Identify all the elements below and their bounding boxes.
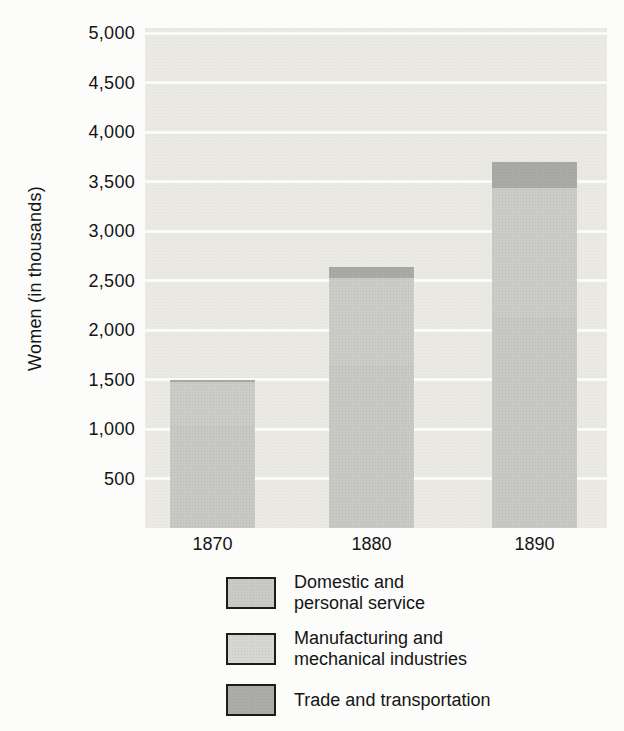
y-tick-label: 3,500 — [40, 171, 135, 193]
legend: Domestic and personal serviceManufacturi… — [226, 572, 490, 730]
y-tick-label: 1,500 — [40, 369, 135, 391]
bar-segment — [492, 188, 577, 317]
y-tick-label: 4,500 — [40, 72, 135, 94]
bar-segment — [329, 365, 414, 528]
legend-item: Domestic and personal service — [226, 572, 490, 614]
y-tick-label: 1,000 — [40, 418, 135, 440]
bar-segment — [170, 426, 255, 528]
bar-1880 — [329, 267, 414, 528]
legend-swatch — [226, 633, 276, 665]
gridline — [145, 131, 607, 134]
bar-1890 — [492, 162, 577, 528]
bar-segment — [492, 162, 577, 189]
bar-1870 — [170, 380, 255, 528]
bar-segment — [492, 317, 577, 528]
legend-swatch — [226, 577, 276, 609]
y-tick-label: 2,000 — [40, 319, 135, 341]
plot-area — [145, 28, 607, 528]
gridline — [145, 32, 607, 35]
x-tick-label: 1890 — [485, 533, 585, 555]
y-tick-label: 4,000 — [40, 121, 135, 143]
legend-label: Trade and transportation — [294, 690, 490, 711]
legend-swatch — [226, 684, 276, 716]
bar-segment — [170, 382, 255, 426]
y-tick-label: 500 — [40, 468, 135, 490]
legend-label: Manufacturing and mechanical industries — [294, 628, 467, 670]
y-tick-label: 3,000 — [40, 220, 135, 242]
legend-item: Manufacturing and mechanical industries — [226, 628, 490, 670]
gridline — [145, 81, 607, 84]
y-tick-label: 2,500 — [40, 270, 135, 292]
y-tick-label: 5,000 — [40, 22, 135, 44]
x-tick-label: 1880 — [322, 533, 422, 555]
chart: Women (in thousands) 5,0004,5004,0003,50… — [0, 0, 624, 731]
legend-item: Trade and transportation — [226, 684, 490, 716]
bar-segment — [329, 278, 414, 366]
bar-segment — [329, 267, 414, 278]
x-tick-label: 1870 — [163, 533, 263, 555]
legend-label: Domestic and personal service — [294, 572, 425, 614]
